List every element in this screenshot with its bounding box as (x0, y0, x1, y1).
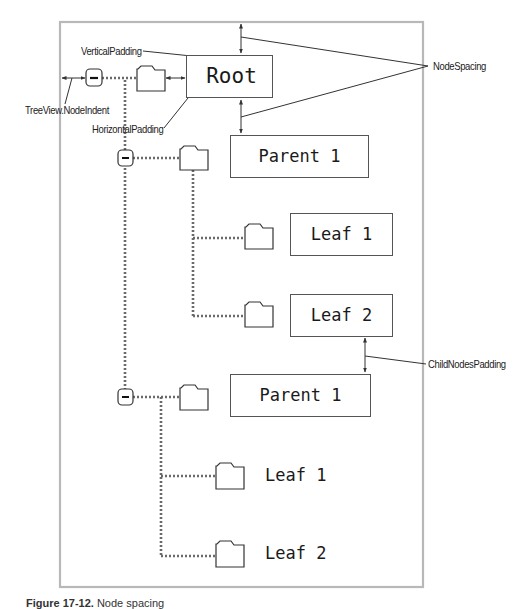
expander-root[interactable] (86, 69, 102, 86)
label-horizontal-padding: HorizontalPadding (92, 123, 163, 135)
folder-icon (245, 224, 273, 249)
node-label: Parent 1 (260, 387, 342, 404)
label-node-indent: TreeView.NodeIndent (25, 104, 109, 116)
expander-parent-a[interactable] (118, 150, 133, 166)
folder-icon (245, 302, 273, 327)
tree-node-leaf-a1[interactable]: Leaf 1 (290, 213, 393, 256)
figure-caption: Figure 17-12. Node spacing (26, 597, 164, 609)
node-label: Parent 1 (259, 148, 341, 165)
tree-node-parent-b[interactable]: Parent 1 (230, 374, 371, 417)
expander-parent-b[interactable] (118, 389, 133, 405)
folder-icon (216, 463, 244, 489)
tree-node-root[interactable]: Root (186, 55, 273, 98)
tree-node-leaf-b2[interactable]: Leaf 2 (265, 545, 326, 562)
node-label: Root (206, 66, 257, 87)
figure-title: Node spacing (97, 597, 164, 609)
folder-icon (180, 146, 208, 170)
node-label: Leaf 1 (311, 226, 372, 243)
label-child-nodes-padding: ChildNodesPadding (428, 358, 506, 370)
node-label: Leaf 2 (311, 307, 372, 324)
folder-icon (137, 66, 165, 91)
tree-node-parent-a[interactable]: Parent 1 (230, 135, 369, 178)
label-node-spacing: NodeSpacing (433, 60, 486, 72)
folder-icon (180, 385, 208, 410)
tree-node-leaf-b1[interactable]: Leaf 1 (265, 467, 326, 484)
tree-node-leaf-a2[interactable]: Leaf 2 (290, 294, 393, 337)
folder-icon (216, 541, 244, 567)
label-vertical-padding: VerticalPadding (81, 45, 142, 57)
figure-number: Figure 17-12. (26, 597, 94, 609)
